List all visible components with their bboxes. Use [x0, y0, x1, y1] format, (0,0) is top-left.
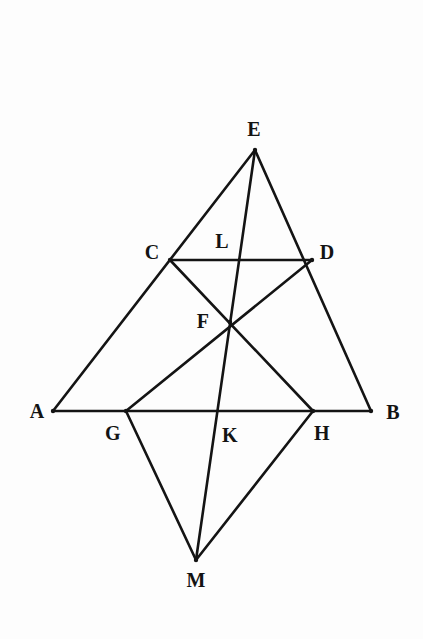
segment-GM	[126, 411, 196, 560]
point-label-c: C	[145, 242, 160, 262]
edges-group	[53, 150, 371, 560]
vertex-dot-g	[124, 409, 128, 413]
vertex-dots-group	[51, 148, 373, 562]
point-label-f: F	[197, 311, 209, 331]
vertex-dot-d	[310, 258, 314, 262]
point-label-k: K	[222, 425, 238, 445]
vertex-dot-c	[168, 258, 172, 262]
vertex-dot-a	[51, 409, 55, 413]
point-label-m: M	[186, 570, 205, 590]
segment-BE	[255, 150, 371, 411]
segment-EM	[196, 150, 255, 560]
point-label-l: L	[215, 231, 229, 251]
vertex-dot-h	[311, 409, 315, 413]
point-label-e: E	[247, 119, 261, 139]
vertex-dot-f	[228, 320, 232, 324]
geometry-figure: ABCDEFGHKLM	[0, 0, 423, 639]
vertex-dot-b	[369, 409, 373, 413]
point-label-h: H	[314, 423, 330, 443]
point-label-a: A	[30, 401, 45, 421]
point-label-g: G	[105, 423, 121, 443]
segment-CH	[170, 260, 313, 411]
segment-AE	[53, 150, 255, 411]
point-label-b: B	[386, 402, 400, 422]
vertex-dot-e	[253, 148, 257, 152]
vertex-dot-m	[194, 558, 198, 562]
point-label-d: D	[320, 242, 335, 262]
geometry-canvas	[0, 0, 423, 639]
